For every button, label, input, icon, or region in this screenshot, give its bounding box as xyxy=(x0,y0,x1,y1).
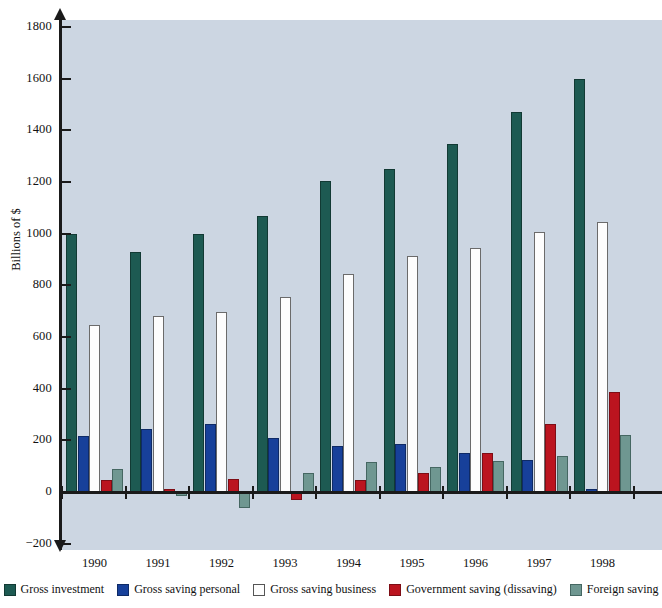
bar-business-1997 xyxy=(534,232,545,492)
x-axis-tick-label: 1995 xyxy=(380,556,444,571)
x-axis-tick xyxy=(252,486,254,499)
x-axis-tick-label: 1990 xyxy=(63,556,127,571)
legend-label: Government saving (dissaving) xyxy=(406,582,557,597)
y-axis-tick xyxy=(62,336,71,338)
x-axis-tick xyxy=(633,486,635,499)
legend-item-personal[interactable]: Gross saving personal xyxy=(117,582,240,597)
y-axis-arrow-up-icon xyxy=(54,8,66,20)
bar-investment-1997 xyxy=(511,112,522,492)
y-axis-tick xyxy=(62,26,71,28)
bar-personal-1997 xyxy=(522,460,533,492)
x-axis-tick-label: 1993 xyxy=(253,556,317,571)
y-axis-tick-label: 1600 xyxy=(0,71,52,86)
x-axis-line xyxy=(59,491,662,494)
bar-investment-1992 xyxy=(193,234,204,492)
y-axis-tick xyxy=(62,491,71,493)
legend-swatch-government-icon xyxy=(389,584,401,596)
y-axis-tick xyxy=(62,181,71,183)
legend-item-foreign[interactable]: Foreign saving xyxy=(570,582,659,597)
bar-foreign-1992 xyxy=(239,492,250,508)
legend-label: Foreign saving xyxy=(587,582,659,597)
bar-foreign-1997 xyxy=(557,456,568,492)
y-axis-title: Billions of $ xyxy=(9,180,24,300)
y-axis-tick xyxy=(62,284,71,286)
bar-business-1991 xyxy=(153,316,164,492)
bar-business-1995 xyxy=(407,256,418,492)
x-axis-tick-label: 1997 xyxy=(507,556,571,571)
bar-government-1998 xyxy=(609,392,620,492)
x-axis-tick-label: 1994 xyxy=(317,556,381,571)
y-axis-tick xyxy=(62,543,71,545)
bar-investment-1991 xyxy=(130,252,141,492)
bar-business-1993 xyxy=(280,297,291,492)
bar-business-1998 xyxy=(597,222,608,492)
legend-swatch-investment-icon xyxy=(4,584,16,596)
bar-personal-1991 xyxy=(141,429,152,492)
bar-personal-1990 xyxy=(78,436,89,492)
y-axis-tick-label: 0 xyxy=(0,484,52,499)
x-axis-tick-label: 1991 xyxy=(126,556,190,571)
y-axis-tick-label: 600 xyxy=(0,329,52,344)
x-axis-tick-label: 1998 xyxy=(571,556,635,571)
y-axis-tick xyxy=(62,439,71,441)
legend-swatch-foreign-icon xyxy=(570,584,582,596)
x-axis-tick xyxy=(315,486,317,499)
bar-personal-1993 xyxy=(268,438,279,492)
x-axis-tick xyxy=(61,486,63,499)
legend-label: Gross saving business xyxy=(270,582,376,597)
bar-foreign-1996 xyxy=(493,461,504,492)
bar-foreign-1990 xyxy=(112,469,123,492)
y-axis-tick xyxy=(62,388,71,390)
chart-figure: −200020040060080010001200140016001800 19… xyxy=(0,0,662,608)
legend-swatch-personal-icon xyxy=(117,584,129,596)
bar-government-1995 xyxy=(418,473,429,492)
bar-personal-1992 xyxy=(205,424,216,492)
x-axis-tick xyxy=(379,486,381,499)
y-axis-tick xyxy=(62,233,71,235)
bar-personal-1995 xyxy=(395,444,406,492)
x-axis-tick-label: 1996 xyxy=(444,556,508,571)
chart-legend: Gross investmentGross saving personalGro… xyxy=(0,582,662,597)
bar-personal-1994 xyxy=(332,446,343,493)
x-axis-tick xyxy=(442,486,444,499)
bar-business-1990 xyxy=(89,325,100,492)
y-axis-tick-label: −200 xyxy=(0,536,52,551)
bar-investment-1995 xyxy=(384,169,395,492)
legend-label: Gross saving personal xyxy=(134,582,240,597)
plot-area xyxy=(62,20,662,550)
bar-foreign-1995 xyxy=(430,467,441,492)
x-axis-tick-label: 1992 xyxy=(190,556,254,571)
bar-business-1992 xyxy=(216,312,227,492)
x-axis-tick xyxy=(125,486,127,499)
bar-foreign-1993 xyxy=(303,473,314,492)
bar-business-1994 xyxy=(343,274,354,492)
bar-government-1996 xyxy=(482,453,493,492)
bar-personal-1996 xyxy=(459,453,470,492)
bar-business-1996 xyxy=(470,248,481,492)
bar-foreign-1994 xyxy=(366,462,377,492)
x-axis-tick xyxy=(506,486,508,499)
legend-swatch-business-icon xyxy=(253,584,265,596)
bar-investment-1994 xyxy=(320,181,331,492)
bar-investment-1996 xyxy=(447,144,458,492)
y-axis-tick-label: 200 xyxy=(0,432,52,447)
legend-item-investment[interactable]: Gross investment xyxy=(4,582,105,597)
bar-investment-1998 xyxy=(574,79,585,492)
x-axis-tick xyxy=(569,486,571,499)
bar-foreign-1998 xyxy=(620,435,631,492)
bar-government-1997 xyxy=(545,424,556,492)
legend-label: Gross investment xyxy=(21,582,105,597)
y-axis-tick-label: 400 xyxy=(0,381,52,396)
y-axis-tick-label: 1400 xyxy=(0,122,52,137)
y-axis-tick xyxy=(62,78,71,80)
bar-investment-1990 xyxy=(66,234,77,492)
bar-investment-1993 xyxy=(257,216,268,492)
legend-item-government[interactable]: Government saving (dissaving) xyxy=(389,582,557,597)
y-axis-tick-label: 1800 xyxy=(0,19,52,34)
legend-item-business[interactable]: Gross saving business xyxy=(253,582,376,597)
x-axis-tick xyxy=(188,486,190,499)
y-axis-tick xyxy=(62,129,71,131)
